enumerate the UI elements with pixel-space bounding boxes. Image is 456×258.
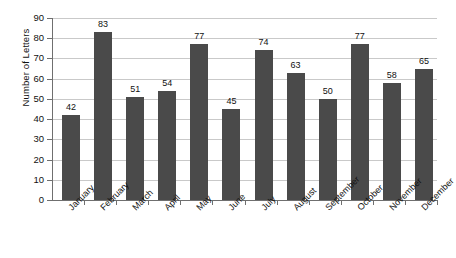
y-tick-label: 20 [16, 155, 44, 165]
x-tick-mark [309, 201, 310, 205]
bar-value-label: 65 [407, 57, 441, 66]
y-tick-label: 90 [16, 13, 44, 23]
y-tick-label: 50 [16, 94, 44, 104]
bar-value-label: 51 [118, 85, 152, 94]
x-tick-mark [437, 201, 438, 205]
y-tick-label: 40 [16, 114, 44, 124]
bar-value-label: 77 [343, 32, 377, 41]
y-axis-line [52, 18, 53, 201]
bar[interactable] [383, 83, 401, 200]
x-tick-mark [212, 201, 213, 205]
x-tick-mark [277, 201, 278, 205]
y-tick-label: 10 [16, 175, 44, 185]
y-tick-label: 60 [16, 74, 44, 84]
x-tick-mark [84, 201, 85, 205]
y-tick-label: 0 [16, 195, 44, 205]
y-tick-label: 70 [16, 53, 44, 63]
bar-value-label: 63 [279, 61, 313, 70]
gridline [52, 18, 437, 19]
bar[interactable] [190, 44, 208, 200]
x-tick-mark [405, 201, 406, 205]
y-tick-label: 30 [16, 134, 44, 144]
x-tick-mark [180, 201, 181, 205]
bar[interactable] [287, 73, 305, 200]
bar-value-label: 54 [150, 79, 184, 88]
bar[interactable] [319, 99, 337, 200]
x-tick-mark [116, 201, 117, 205]
x-tick-mark [245, 201, 246, 205]
bar[interactable] [222, 109, 240, 200]
bar-value-label: 42 [54, 103, 88, 112]
bar[interactable] [158, 91, 176, 200]
bar[interactable] [255, 50, 273, 200]
bar-value-label: 77 [182, 32, 216, 41]
bar-value-label: 74 [247, 38, 281, 47]
plot-area [52, 18, 437, 200]
bar-value-label: 45 [214, 97, 248, 106]
x-tick-mark [341, 201, 342, 205]
bar[interactable] [94, 32, 112, 200]
bar-value-label: 83 [86, 20, 120, 29]
bar-value-label: 50 [311, 87, 345, 96]
bar[interactable] [62, 115, 80, 200]
y-tick-label: 80 [16, 33, 44, 43]
x-tick-mark [148, 201, 149, 205]
bar-value-label: 58 [375, 71, 409, 80]
x-tick-mark [373, 201, 374, 205]
